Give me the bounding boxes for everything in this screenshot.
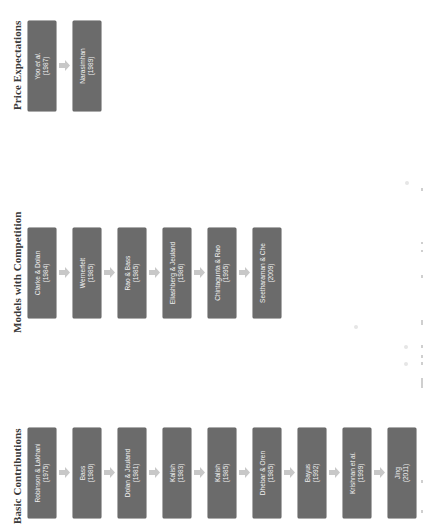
box-seetharaman-che-2009: Seetharaman & Che(2009)	[253, 228, 281, 318]
box-author: Eliashberg & Jeuland	[169, 230, 177, 316]
box-author: Rao & Bass	[124, 230, 132, 316]
arrow-right-icon	[284, 467, 295, 478]
scan-artifact-marks	[421, 180, 427, 532]
box-year: (1987)	[42, 23, 50, 109]
arrow-right-icon	[104, 267, 115, 278]
box-year: (1983)	[177, 430, 185, 516]
row-title-price-expectations: Price Expectations	[11, 21, 23, 110]
box-year: (1984)	[42, 230, 50, 316]
scan-artifact-smudge	[404, 362, 408, 366]
scan-artifact-smudge	[354, 325, 358, 329]
arrow-right-icon	[194, 267, 205, 278]
box-author: Jing	[394, 430, 402, 516]
arrow-right-icon	[329, 467, 340, 478]
box-year: (1992)	[312, 430, 320, 516]
box-dolan-jeuland-1981: Dolan & Jeuland(1981)	[118, 428, 146, 518]
box-clarke-dolan-1984: Clarke & Dolan(1984)	[28, 228, 56, 318]
arrow-right-icon	[149, 467, 160, 478]
arrow-right-icon	[374, 467, 385, 478]
box-year: (1985)	[222, 430, 230, 516]
et-al-italic: et al.	[34, 52, 41, 66]
box-dhebar-oren-1985: Dhebar & Oren(1985)	[253, 428, 281, 518]
box-bass-1980: Bass(1980)	[73, 428, 101, 518]
box-krishnan-1999: Krishnan et al.(1999)	[343, 428, 371, 518]
box-year: (1989)	[87, 23, 95, 109]
box-author: Chintagunta & Rao	[214, 230, 222, 316]
box-author: Bass	[79, 430, 87, 516]
scan-artifact-smudge	[404, 345, 408, 349]
row-title-basic-contributions: Basic Contributions	[11, 428, 23, 524]
box-author: Bayus	[304, 430, 312, 516]
box-author: Kalish	[214, 430, 222, 516]
box-author: Kalish	[169, 430, 177, 516]
box-chintagunta-rao-1995: Chintagunta & Rao(1995)	[208, 228, 236, 318]
box-kalish-1983: Kalish(1983)	[163, 428, 191, 518]
box-year: (1980)	[87, 430, 95, 516]
box-bayus-1992: Bayus(1992)	[298, 428, 326, 518]
arrow-right-icon	[59, 467, 70, 478]
arrow-right-icon	[59, 267, 70, 278]
box-year: (1985)	[132, 230, 140, 316]
box-author: Krishnan et al.	[349, 430, 357, 516]
box-author: Narasimhan	[79, 23, 87, 109]
box-jing-2011: Jing(2011)	[388, 428, 416, 518]
arrow-right-icon	[239, 467, 250, 478]
box-year: (1995)	[222, 230, 230, 316]
box-robinson-lakhani-1975: Robinson & Lakhani(1975)	[28, 428, 56, 518]
box-author: Wernerfelt	[79, 230, 87, 316]
box-year: (1999)	[357, 430, 365, 516]
box-author: Clarke & Dolan	[34, 230, 42, 316]
box-year: (1985)	[267, 430, 275, 516]
et-al-italic: et al.	[349, 452, 356, 466]
box-eliashberg-jeuland-1986: Eliashberg & Jeuland(1986)	[163, 228, 191, 318]
box-wernerfelt-1985: Wernerfelt(1985)	[73, 228, 101, 318]
box-year: (1986)	[177, 230, 185, 316]
box-author: Dolan & Jeuland	[124, 430, 132, 516]
box-author: Dhebar & Oren	[259, 430, 267, 516]
box-author: Seetharaman & Che	[259, 230, 267, 316]
row-title-models-with-competition: Models with Competition	[11, 212, 23, 333]
box-year: (1975)	[42, 430, 50, 516]
arrow-right-icon	[149, 267, 160, 278]
arrow-right-icon	[239, 267, 250, 278]
arrow-right-icon	[104, 467, 115, 478]
box-year: (2009)	[267, 230, 275, 316]
box-narasimhan-1989: Narasimhan(1989)	[73, 21, 101, 111]
box-author: Robinson & Lakhani	[34, 430, 42, 516]
box-yoo-1987: Yoo et al.(1987)	[28, 21, 56, 111]
arrow-right-icon	[194, 467, 205, 478]
box-year: (1981)	[132, 430, 140, 516]
arrow-right-icon	[59, 60, 70, 71]
box-rao-bass-1985: Rao & Bass(1985)	[118, 228, 146, 318]
box-year: (2011)	[402, 430, 410, 516]
box-kalish-1985: Kalish(1985)	[208, 428, 236, 518]
box-author: Yoo et al.	[34, 23, 42, 109]
box-year: (1985)	[87, 230, 95, 316]
scan-artifact-smudge	[405, 181, 409, 185]
